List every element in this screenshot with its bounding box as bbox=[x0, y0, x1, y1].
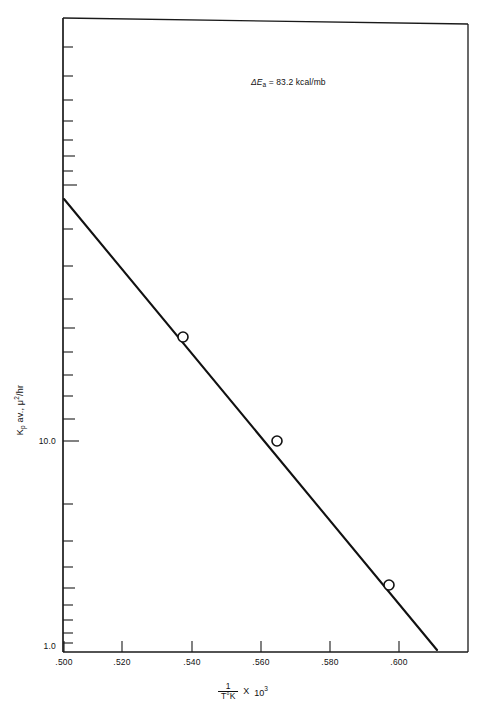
figure-page: ΔEa = 83.2 kcal/mb 10.0 1.0 .500 .520 .5… bbox=[0, 0, 484, 718]
x-tick-label-540: .540 bbox=[183, 657, 200, 667]
x-tick-label-600: .600 bbox=[390, 657, 407, 667]
plot-frame-top bbox=[63, 18, 468, 24]
x-tick-label-500: .500 bbox=[55, 657, 72, 667]
x-axis-title-fraction: 1 T°K bbox=[218, 682, 238, 701]
x-axis-title-exponent: 3 bbox=[264, 685, 268, 692]
annotation-symbol: ΔE bbox=[251, 77, 263, 87]
x-axis-title-times: X bbox=[243, 686, 249, 696]
data-point bbox=[384, 580, 394, 590]
x-axis-title-numerator: 1 bbox=[223, 682, 234, 691]
y-tick-label-1: 1.0 bbox=[16, 641, 56, 651]
fitted-trend-line bbox=[64, 199, 437, 650]
data-point bbox=[178, 332, 188, 342]
data-point bbox=[272, 436, 282, 446]
x-axis-title-denominator: T°K bbox=[218, 692, 238, 701]
arrhenius-plot-figure: ΔEa = 83.2 kcal/mb 10.0 1.0 .500 .520 .5… bbox=[0, 0, 484, 718]
x-tick-label-580: .580 bbox=[321, 657, 338, 667]
y-axis-ticks bbox=[63, 47, 79, 643]
y-axis-title-sub: p bbox=[19, 425, 26, 429]
y-axis-title-rest: av., μ bbox=[15, 400, 25, 425]
x-tick-label-520: .520 bbox=[113, 657, 130, 667]
y-axis-title-wrapper: Kp av., μ2/hr bbox=[8, 350, 30, 470]
activation-energy-annotation: ΔEa = 83.2 kcal/mb bbox=[251, 77, 326, 88]
annotation-value: = 83.2 kcal/mb bbox=[266, 77, 325, 87]
plot-canvas bbox=[0, 0, 484, 718]
x-axis-title-factor-base: 10 bbox=[254, 688, 264, 698]
y-axis-title-sup: 2 bbox=[13, 396, 20, 400]
x-tick-label-560: .560 bbox=[252, 657, 269, 667]
x-axis-ticks bbox=[64, 641, 399, 652]
y-axis-title-main: K bbox=[15, 429, 25, 435]
y-axis-title-tail: /hr bbox=[15, 385, 25, 396]
x-axis-title-factor: 103 bbox=[254, 685, 268, 698]
y-axis-title: Kp av., μ2/hr bbox=[13, 385, 26, 435]
x-axis-title: 1 T°K X 103 bbox=[218, 682, 268, 701]
